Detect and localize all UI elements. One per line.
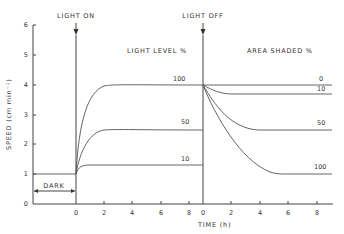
- dark-interval: DARK: [34, 182, 75, 193]
- svg-text:50: 50: [317, 119, 325, 127]
- x-ticks-right: 0 2 4 6 8: [201, 201, 319, 217]
- y-ticks: 6 5 4 3 2 1 0: [24, 21, 36, 208]
- svg-text:4: 4: [130, 209, 134, 217]
- area-shaded-legend-title: AREA SHADED %: [247, 47, 313, 55]
- light-off-annotation: LIGHT OFF: [182, 12, 223, 35]
- svg-text:6: 6: [286, 209, 290, 217]
- svg-text:0: 0: [24, 200, 28, 208]
- svg-text:4: 4: [258, 209, 262, 217]
- svg-text:2: 2: [102, 209, 106, 217]
- svg-text:8: 8: [187, 209, 191, 217]
- series-100: [203, 85, 332, 174]
- svg-text:50: 50: [181, 118, 189, 126]
- svg-text:6: 6: [159, 209, 163, 217]
- x-axis-label: TIME (h): [197, 221, 231, 229]
- svg-text:4: 4: [24, 81, 28, 89]
- series-10: [76, 165, 203, 174]
- speed-vs-time-chart: SPEED (cm min⁻¹) 6 5 4 3 2 1 0 0 2: [0, 0, 344, 234]
- svg-text:10: 10: [317, 85, 325, 93]
- y-axis-label: SPEED (cm min⁻¹): [5, 79, 13, 150]
- svg-text:100: 100: [173, 75, 185, 83]
- svg-text:3: 3: [24, 111, 28, 119]
- svg-text:LIGHT OFF: LIGHT OFF: [182, 12, 223, 20]
- svg-text:6: 6: [24, 21, 28, 29]
- svg-text:100: 100: [314, 163, 326, 171]
- arrow-down-icon: [74, 29, 79, 35]
- area-shaded-series: 0 10 50 100: [203, 75, 332, 174]
- svg-text:DARK: DARK: [43, 182, 64, 190]
- light-level-legend-title: LIGHT LEVEL %: [127, 47, 187, 55]
- svg-text:8: 8: [315, 209, 319, 217]
- svg-text:10: 10: [181, 155, 189, 163]
- svg-text:0: 0: [319, 75, 323, 83]
- svg-text:0: 0: [201, 209, 205, 217]
- svg-text:2: 2: [229, 209, 233, 217]
- svg-text:2: 2: [24, 140, 28, 148]
- series-50: [76, 130, 203, 174]
- series-10: [203, 85, 332, 94]
- x-ticks-left: 0 2 4 6 8: [74, 201, 191, 217]
- svg-text:LIGHT ON: LIGHT ON: [57, 12, 95, 20]
- svg-text:0: 0: [74, 209, 78, 217]
- svg-text:1: 1: [24, 170, 28, 178]
- light-level-series: 100 50 10: [76, 75, 203, 174]
- arrow-down-icon: [201, 29, 206, 35]
- light-on-annotation: LIGHT ON: [57, 12, 95, 35]
- svg-text:5: 5: [24, 51, 28, 59]
